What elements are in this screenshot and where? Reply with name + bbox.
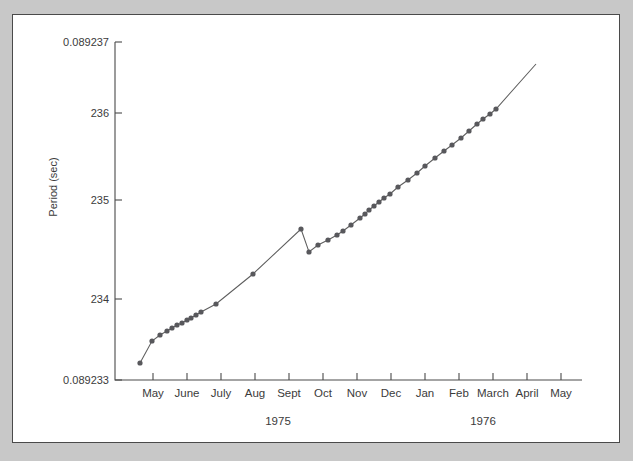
x-tick-label: Sept: [277, 387, 301, 399]
y-tick-label: 234: [91, 293, 109, 305]
y-tick-label: 236: [91, 107, 109, 119]
data-point: [449, 142, 454, 147]
data-point: [298, 226, 303, 231]
data-point: [315, 242, 320, 247]
data-point: [366, 207, 371, 212]
data-point: [480, 116, 485, 121]
data-point: [193, 312, 198, 317]
x-tick-label: April: [515, 387, 538, 399]
data-point: [414, 170, 419, 175]
data-point: [362, 211, 367, 216]
period-series-markers: [137, 106, 498, 365]
data-point: [387, 191, 392, 196]
data-point: [348, 222, 353, 227]
data-point: [441, 148, 446, 153]
data-point: [188, 315, 193, 320]
data-point: [164, 328, 169, 333]
y-tick-label: 0.089237: [63, 36, 109, 48]
data-point: [325, 237, 330, 242]
x-tick-label: May: [142, 387, 164, 399]
x-tick-label: Dec: [381, 387, 402, 399]
data-point: [149, 338, 154, 343]
data-point: [137, 360, 142, 365]
x-tick-label: Nov: [347, 387, 368, 399]
data-point: [405, 177, 410, 182]
x-tick-label: June: [175, 387, 200, 399]
data-point: [376, 199, 381, 204]
data-point: [340, 228, 345, 233]
x-axis-year-labels: 19751976: [265, 415, 496, 427]
figure-panel: 0.0892372362352340.089233 MayJuneJulyAug…: [12, 14, 620, 443]
data-point: [493, 106, 498, 111]
x-tick-label: Oct: [314, 387, 333, 399]
year-label: 1975: [265, 415, 291, 427]
data-point: [174, 322, 179, 327]
data-point: [371, 203, 376, 208]
data-point: [395, 184, 400, 189]
data-point: [357, 215, 362, 220]
y-axis-tick-labels: 0.0892372362352340.089233: [63, 36, 109, 386]
axis-spines: [115, 42, 582, 380]
x-axis-tickmarks: [153, 373, 561, 380]
data-point: [250, 271, 255, 276]
data-point: [179, 320, 184, 325]
x-tick-label: May: [550, 387, 572, 399]
x-tick-label: Feb: [449, 387, 469, 399]
x-axis-tick-labels: MayJuneJulyAugSeptOctNovDecJanFebMarchAp…: [142, 387, 572, 399]
data-point: [334, 232, 339, 237]
data-point: [474, 121, 479, 126]
x-tick-label: March: [477, 387, 509, 399]
data-point: [422, 163, 427, 168]
data-point: [487, 111, 492, 116]
data-point: [169, 325, 174, 330]
data-point: [466, 128, 471, 133]
data-point: [157, 332, 162, 337]
pulsar-period-chart: 0.0892372362352340.089233 MayJuneJulyAug…: [13, 15, 619, 442]
data-point: [458, 135, 463, 140]
x-tick-label: Jan: [416, 387, 435, 399]
data-point: [306, 249, 311, 254]
y-tick-label: 235: [91, 194, 109, 206]
data-point: [432, 155, 437, 160]
data-point: [198, 309, 203, 314]
y-axis-tickmarks: [115, 42, 122, 380]
y-axis-title: Period (sec): [47, 157, 59, 216]
x-tick-label: July: [211, 387, 232, 399]
year-label: 1976: [470, 415, 496, 427]
data-point: [381, 195, 386, 200]
data-point: [213, 301, 218, 306]
period-series-line: [140, 64, 536, 363]
x-tick-label: Aug: [245, 387, 265, 399]
y-tick-label: 0.089233: [63, 374, 109, 386]
